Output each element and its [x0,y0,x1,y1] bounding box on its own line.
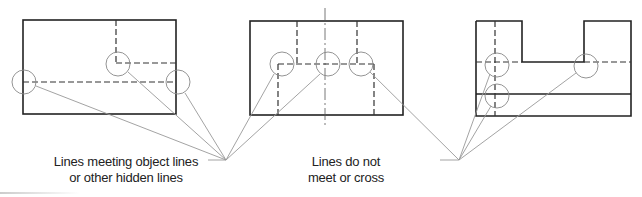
label-line: meet or cross [286,170,406,186]
divider [0,192,80,194]
label-line: or other hidden lines [46,170,206,186]
highlight-circle [574,54,598,78]
label-line: Lines do not [286,154,406,170]
highlight-circle [485,53,509,77]
label-lines-not-meeting: Lines do not meet or cross [286,154,406,186]
view-right [476,21,631,116]
label-lines-meeting: Lines meeting object lines or other hidd… [46,154,206,186]
highlight-circle [485,84,509,108]
highlight-circle [106,52,130,76]
object-outline [476,21,631,116]
view-middle [250,8,403,128]
view-left [12,20,190,114]
label-line: Lines meeting object lines [46,154,206,170]
object-outline [23,20,176,114]
object-outline [250,21,403,115]
